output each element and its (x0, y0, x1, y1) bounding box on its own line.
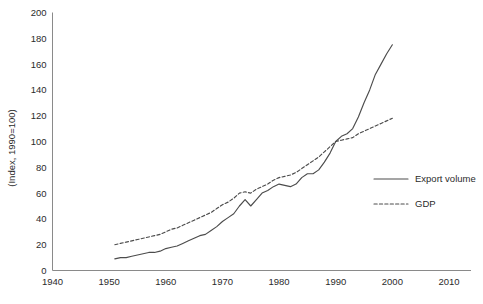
y-tick-label: 120 (31, 110, 47, 121)
y-tick-label: 180 (31, 33, 47, 44)
y-tick-label: 200 (31, 7, 47, 18)
x-tick-label: 1960 (155, 276, 176, 287)
y-tick-label: 40 (36, 213, 47, 224)
y-tick-label: 160 (31, 59, 47, 70)
x-tick-label: 2000 (382, 276, 403, 287)
line-chart: 020406080100120140160180200 194019501960… (0, 0, 483, 304)
y-axis-title: (Index, 1990=100) (6, 109, 17, 186)
chart-container: 020406080100120140160180200 194019501960… (0, 0, 483, 304)
x-tick-label: 1950 (99, 276, 120, 287)
x-tick-label: 1970 (212, 276, 233, 287)
y-tick-label: 20 (36, 239, 47, 250)
y-tick-label: 100 (31, 136, 47, 147)
legend-label-export-volume: Export volume (415, 173, 476, 184)
y-tick-label: 0 (41, 265, 46, 276)
chart-background (0, 0, 483, 304)
y-tick-label: 80 (36, 162, 47, 173)
x-tick-label: 1980 (269, 276, 290, 287)
y-tick-label: 140 (31, 84, 47, 95)
x-tick-label: 1940 (42, 276, 63, 287)
x-tick-label: 1990 (325, 276, 346, 287)
legend-label-gdp: GDP (415, 198, 436, 209)
x-tick-label: 2010 (438, 276, 459, 287)
y-tick-label: 60 (36, 188, 47, 199)
